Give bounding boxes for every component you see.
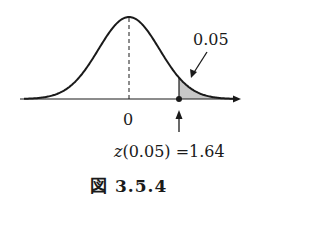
z-expression: (0.05) =1.64 bbox=[122, 142, 224, 161]
x-axis-arrowhead-icon bbox=[233, 96, 241, 103]
cutoff-point bbox=[176, 96, 182, 102]
critical-value-label: z(0.05) =1.64 bbox=[114, 142, 225, 161]
cutoff-arrowhead-icon bbox=[176, 110, 183, 119]
mean-tick-label: 0 bbox=[123, 110, 133, 129]
figure-caption: 図 3.5.4 bbox=[90, 172, 167, 197]
tail-area-label: 0.05 bbox=[193, 30, 229, 49]
tail-pointer-arrow bbox=[193, 52, 207, 74]
